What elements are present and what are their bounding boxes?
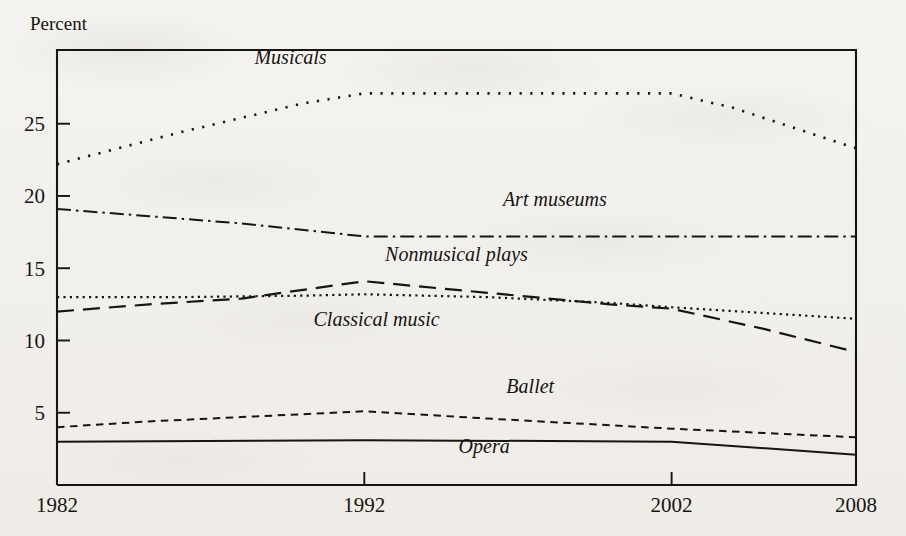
x-tick-label: 1982 xyxy=(36,493,78,517)
x-tick-label: 1992 xyxy=(343,493,385,517)
y-tick-label: 5 xyxy=(35,401,46,425)
series-label-musicals: Musicals xyxy=(253,46,326,68)
series-line-opera xyxy=(57,440,856,454)
series-line-ballet xyxy=(57,411,856,437)
y-axis-ticks: 252015105 xyxy=(24,112,70,425)
y-tick-label: 10 xyxy=(24,329,45,353)
series-label-ballet: Ballet xyxy=(506,375,554,397)
y-tick-label: 15 xyxy=(24,257,45,281)
line-chart-figure: Percent 252015105 1982199220022008 Music… xyxy=(0,0,906,536)
x-tick-label: 2008 xyxy=(835,493,877,517)
series-label-classical-music: Classical music xyxy=(314,308,440,330)
series-line-classical-music xyxy=(57,294,856,319)
x-axis-ticks: 1982199220022008 xyxy=(36,472,877,517)
series-line-nonmusical-plays xyxy=(57,281,856,352)
series-line-art-museums xyxy=(57,209,856,236)
series-label-nonmusical-plays: Nonmusical plays xyxy=(384,243,528,266)
data-series-group xyxy=(57,93,856,454)
y-tick-label: 20 xyxy=(24,184,45,208)
chart-canvas: Percent 252015105 1982199220022008 Music… xyxy=(0,0,906,536)
y-tick-label: 25 xyxy=(24,112,45,136)
x-tick-label: 2002 xyxy=(651,493,693,517)
series-line-musicals xyxy=(57,93,856,164)
series-label-art-museums: Art museums xyxy=(501,188,607,210)
y-axis-title: Percent xyxy=(30,13,88,34)
series-label-group: MusicalsArt museumsNonmusical playsClass… xyxy=(253,46,607,458)
series-label-opera: Opera xyxy=(459,435,510,458)
